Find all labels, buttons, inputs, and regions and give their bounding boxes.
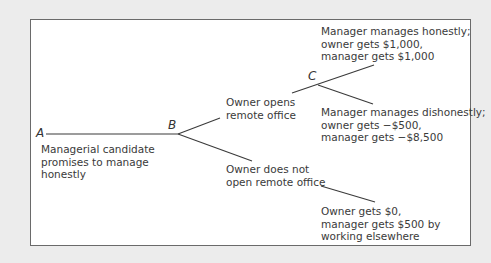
node-a: A (36, 126, 44, 140)
edge-opens-c-honest (292, 65, 374, 93)
edge-c-dishonest (318, 85, 373, 104)
label-elsewhere-outcome: Owner gets $0, manager gets $500 by work… (321, 205, 441, 243)
label-dishonest-outcome: Manager manages dishonestly; owner gets … (321, 106, 486, 144)
label-candidate: Managerial candidate promises to manage … (41, 143, 155, 181)
edge-b-not-open (178, 134, 252, 161)
node-c: C (308, 69, 316, 83)
label-owner-opens: Owner opens remote office (226, 96, 296, 121)
label-honest-outcome: Manager manages honestly; owner gets $1,… (321, 25, 471, 63)
label-owner-not-open: Owner does not open remote office (226, 163, 325, 188)
edge-b-opens (178, 118, 220, 134)
node-b: B (168, 118, 176, 132)
edge-not-open-elsewhere (321, 186, 375, 202)
